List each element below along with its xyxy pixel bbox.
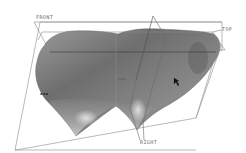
model-graphics[interactable]	[0, 0, 246, 153]
surface-marker: ▪▪▪	[40, 91, 49, 96]
surface-body[interactable]	[36, 29, 220, 136]
datum-label-front[interactable]: FRONT	[36, 14, 53, 20]
datum-label-right[interactable]: RIGHT	[140, 139, 157, 145]
cad-viewport[interactable]: FRONT TOP RIGHT ▪▪▪	[0, 0, 246, 153]
datum-label-top[interactable]: TOP	[222, 26, 232, 32]
